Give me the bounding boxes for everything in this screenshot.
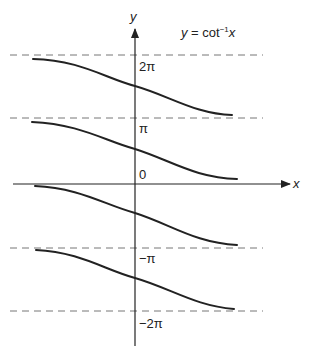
cot-inverse-graph	[0, 0, 312, 356]
tick-label-2pi: 2π	[139, 60, 155, 73]
equation-label: y = cot−1x	[181, 26, 235, 39]
y-axis-label: y	[130, 10, 137, 23]
curve-branch-negpi-0	[35, 186, 237, 245]
tick-label-neg-pi: −π	[139, 252, 156, 265]
equation-x: x	[229, 25, 236, 40]
tick-label-neg-2pi: −2π	[139, 317, 163, 330]
equation-sup: −1	[220, 25, 229, 34]
curve-branch-pi-2pi	[33, 59, 232, 115]
tick-label-pi: π	[139, 122, 148, 135]
x-axis-label: x	[293, 177, 300, 190]
equation-cot: = cot	[188, 25, 220, 40]
asymptote-lines	[10, 55, 263, 311]
tick-label-zero: 0	[139, 168, 146, 181]
